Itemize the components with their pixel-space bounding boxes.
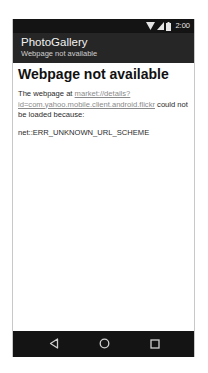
back-button[interactable] <box>47 337 61 351</box>
phone-screen: 2:00 PhotoGallery Webpage not available … <box>12 19 195 357</box>
home-button[interactable] <box>97 337 111 351</box>
app-subtitle: Webpage not available <box>21 49 97 59</box>
status-icons: 2:00 <box>146 21 190 31</box>
recents-button[interactable] <box>148 337 162 351</box>
battery-icon <box>166 22 171 31</box>
error-code: net::ERR_UNKNOWN_URL_SCHEME <box>18 128 189 138</box>
status-bar: 2:00 <box>13 19 194 33</box>
webview-content: Webpage not available The webpage at mar… <box>13 63 194 331</box>
navigation-bar <box>13 331 194 357</box>
home-circle-icon <box>99 335 110 353</box>
recents-square-icon <box>150 335 160 353</box>
app-title: PhotoGallery <box>21 35 87 49</box>
error-description: The webpage at market://details?id=com.y… <box>18 89 189 121</box>
wifi-icon <box>146 22 155 30</box>
back-triangle-icon <box>49 335 59 353</box>
error-heading: Webpage not available <box>18 66 189 83</box>
error-body-prefix: The webpage at <box>18 89 75 98</box>
app-bar: PhotoGallery Webpage not available <box>13 33 194 63</box>
status-time: 2:00 <box>175 21 190 31</box>
signal-icon <box>157 22 164 30</box>
